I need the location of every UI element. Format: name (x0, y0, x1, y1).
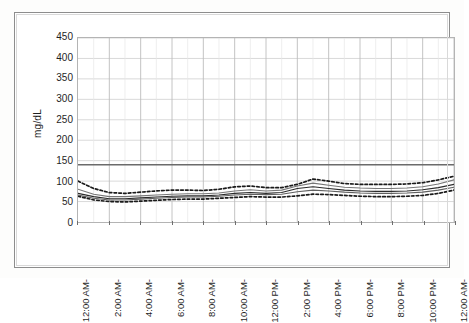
y-axis-tick-label: 250 (56, 115, 73, 125)
x-axis-tick-label: 10:00 AM- (239, 279, 249, 322)
x-axis-tick-label: 4:00 AM- (144, 279, 154, 317)
x-axis-tick-label: 6:00 AM- (176, 279, 186, 317)
x-axis-tick-label: 6:00 PM- (365, 279, 375, 318)
y-axis-tick-label: 100 (56, 177, 73, 187)
x-axis-tick-mark (235, 221, 236, 225)
x-axis-tick-mark (109, 221, 110, 225)
x-axis-tick-mark (172, 221, 173, 225)
x-axis-tick-label: 8:00 PM- (396, 279, 406, 318)
x-axis-tick-mark (266, 221, 267, 225)
x-axis-tick-mark (455, 221, 456, 225)
x-axis-tick-mark (361, 221, 362, 225)
y-axis-tick-label: 450 (56, 32, 73, 42)
x-axis-tick-mark (298, 221, 299, 225)
x-axis-tick-mark (424, 221, 425, 225)
x-axis-tick-mark (203, 221, 204, 225)
x-axis-tick-label: 2:00 AM- (113, 279, 123, 317)
y-axis-tick-label: 300 (56, 94, 73, 104)
x-axis-tick-mark (140, 221, 141, 225)
plot-area (77, 37, 455, 223)
x-axis-tick-mark (329, 221, 330, 225)
x-axis-tick-label: 12:00 AM- (81, 279, 91, 322)
y-axis-title: mg/dL (32, 92, 43, 156)
y-axis-tick-label: 200 (56, 135, 73, 145)
y-axis-tick-label: 0 (67, 218, 73, 228)
x-axis-tick-label: 4:00 PM- (333, 279, 343, 318)
y-axis-tick-label: 50 (62, 197, 73, 207)
y-axis-tick-label: 350 (56, 73, 73, 83)
data-series-layer (78, 38, 454, 222)
y-axis-tick-label: 150 (56, 156, 73, 166)
y-axis-tick-label: 400 (56, 53, 73, 63)
x-axis-tick-label: 12:00 AM- (459, 279, 469, 322)
x-axis-tick-labels: 12:00 AM-2:00 AM-4:00 AM-6:00 AM-8:00 AM… (77, 225, 455, 281)
figure-frame: mg/dL 450400350300250200150100500 12:00 … (14, 12, 450, 268)
x-axis-tick-label: 12:00 PM- (270, 279, 280, 323)
y-axis-tick-labels: 450400350300250200150100500 (43, 37, 73, 223)
x-axis-tick-label: 2:00 PM- (302, 279, 312, 318)
x-axis-tick-mark (392, 221, 393, 225)
x-axis-tick-label: 10:00 PM- (428, 279, 438, 323)
x-axis-tick-label: 8:00 AM- (207, 279, 217, 317)
x-axis-tick-mark (77, 221, 78, 225)
